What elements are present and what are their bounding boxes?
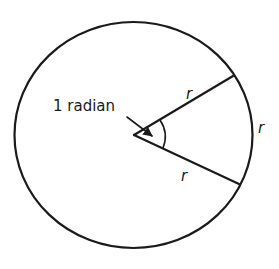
angle-arc (160, 120, 165, 148)
radian-diagram: 1 radian r r r (0, 0, 279, 269)
radius-label-upper: r (186, 85, 193, 103)
radius-upper (134, 76, 233, 135)
angle-label: 1 radian (53, 97, 115, 115)
radius-label-lower: r (181, 167, 188, 185)
arc-length-label: r (258, 119, 265, 137)
